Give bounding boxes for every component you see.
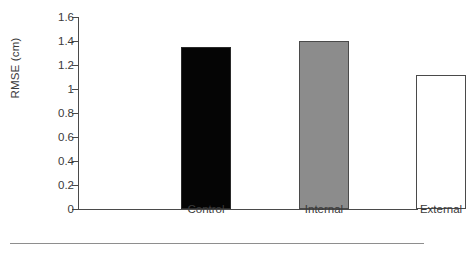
y-tick-label: 1 [68, 83, 74, 95]
y-tick-label: 0.8 [58, 107, 74, 119]
y-tick-label: 1.2 [58, 59, 74, 71]
y-tick-label: 0.4 [58, 155, 74, 167]
y-tick-label: 0.6 [58, 131, 74, 143]
x-label-internal: Internal [305, 203, 343, 215]
y-tick-label: 0 [68, 203, 74, 215]
bar-internal [299, 41, 349, 209]
x-axis-line [78, 209, 418, 210]
bar-control [181, 47, 231, 209]
y-tick-label: 0.2 [58, 179, 74, 191]
x-label-external: External [420, 203, 462, 215]
y-axis-line [78, 17, 79, 209]
bar-external [416, 75, 466, 209]
y-axis-title: RMSE (cm) [9, 8, 21, 128]
footer-rule [10, 243, 424, 244]
y-tick-label: 1.4 [58, 35, 74, 47]
plot-area: 00.20.40.60.811.21.41.6 [78, 17, 418, 209]
y-tick-label: 1.6 [58, 11, 74, 23]
x-label-control: Control [187, 203, 224, 215]
